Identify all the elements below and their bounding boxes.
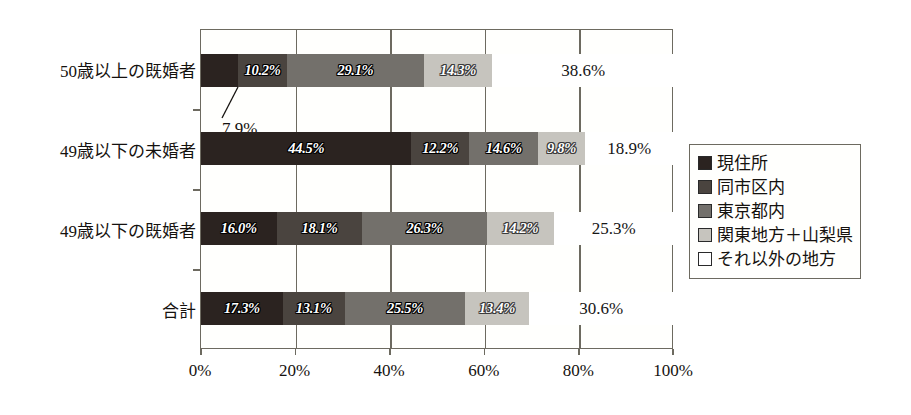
x-axis-tick-40	[389, 349, 391, 355]
x-axis-label-40: 40%	[374, 362, 405, 379]
legend-label-3: 関東地方＋山梨県	[717, 227, 853, 244]
legend-item-0: 現住所	[698, 151, 853, 175]
legend-swatch-icon-4	[698, 252, 712, 266]
bar-segment-label-1-2: 14.6%	[486, 141, 522, 156]
x-axis-tick-100	[672, 349, 674, 355]
legend-swatch-icon-0	[698, 156, 712, 170]
category-label-3-text: 合計	[162, 302, 196, 321]
bar-segment-0-3: 14.3%	[424, 54, 492, 87]
chart-row-0: 10.2% 29.1% 14.3% 38.6% 7.9%	[201, 30, 672, 110]
legend-swatch-icon-3	[698, 228, 712, 242]
legend-item-2: 東京都内	[698, 199, 853, 223]
bar-segment-label-0-2: 29.1%	[337, 63, 373, 78]
bar-segment-label-3-1: 13.1%	[296, 301, 332, 316]
bar-segment-1-3: 9.8%	[538, 132, 584, 165]
bar-segment-label-2-1: 18.1%	[301, 221, 337, 236]
category-label-3: 合計	[26, 303, 196, 320]
bar-segment-label-2-0: 16.0%	[221, 221, 257, 236]
bar-segment-0-4: 38.6%	[492, 54, 675, 87]
x-axis-tick-20	[295, 349, 297, 355]
legend-swatch-icon-1	[698, 180, 712, 194]
chart-row-1: 44.5% 12.2% 14.6% 9.8% 18.9%	[201, 110, 672, 190]
bar-segment-label-0-3: 14.3%	[440, 63, 476, 78]
x-axis-label-0: 0%	[189, 362, 212, 379]
bar-segment-label-3-4: 30.6%	[579, 300, 623, 317]
stacked-bar-3: 17.3% 13.1% 25.5% 13.4% 30.6%	[201, 292, 674, 325]
y-axis-tick-2	[193, 269, 200, 271]
bar-segment-2-3: 14.2%	[487, 212, 554, 245]
x-axis-label-60: 60%	[468, 362, 499, 379]
bar-segment-2-1: 18.1%	[277, 212, 363, 245]
category-label-1: 49歳以下の未婚者	[26, 143, 196, 160]
bar-segment-label-1-4: 18.9%	[607, 140, 651, 157]
x-axis-tick-60	[484, 349, 486, 355]
bar-segment-2-2: 26.3%	[362, 212, 486, 245]
bar-segment-3-0: 17.3%	[201, 292, 283, 325]
x-axis-tick-0	[200, 349, 202, 355]
bar-segment-1-2: 14.6%	[469, 132, 538, 165]
stacked-bar-chart: 10.2% 29.1% 14.3% 38.6% 7.9%	[0, 0, 911, 415]
y-axis-tick-0	[193, 109, 200, 111]
stacked-bar-2: 16.0% 18.1% 26.3% 14.2% 25.3%	[201, 212, 673, 245]
x-axis-tick-80	[578, 349, 580, 355]
legend-label-4: それ以外の地方	[717, 251, 836, 268]
legend-item-1: 同市区内	[698, 175, 853, 199]
y-axis-tick-1	[193, 189, 200, 191]
bar-segment-1-0: 44.5%	[201, 132, 411, 165]
stacked-bar-0: 10.2% 29.1% 14.3% 38.6%	[201, 54, 674, 87]
category-label-1-text: 49歳以下の未婚者	[60, 142, 196, 161]
bar-segment-label-2-4: 25.3%	[592, 220, 636, 237]
bar-segment-3-1: 13.1%	[283, 292, 345, 325]
stacked-bar-1: 44.5% 12.2% 14.6% 9.8% 18.9%	[201, 132, 674, 165]
bar-segment-label-2-3: 14.2%	[502, 221, 538, 236]
legend-label-1: 同市区内	[717, 179, 785, 196]
bar-segment-label-0-4: 38.6%	[561, 62, 605, 79]
bar-segment-3-2: 25.5%	[345, 292, 466, 325]
bar-segment-label-0-1: 10.2%	[245, 63, 281, 78]
plot-area: 10.2% 29.1% 14.3% 38.6% 7.9%	[200, 29, 673, 349]
chart-row-2: 16.0% 18.1% 26.3% 14.2% 25.3%	[201, 190, 672, 270]
bar-segment-3-3: 13.4%	[465, 292, 528, 325]
bar-segment-2-4: 25.3%	[554, 212, 674, 245]
category-label-2: 49歳以下の既婚者	[26, 223, 196, 240]
x-axis-label-100: 100%	[653, 362, 693, 379]
legend-item-3: 関東地方＋山梨県	[698, 223, 853, 247]
bar-segment-0-2: 29.1%	[287, 54, 425, 87]
bar-segment-label-3-2: 25.5%	[387, 301, 423, 316]
x-axis-label-20: 20%	[279, 362, 310, 379]
bar-segment-label-1-0: 44.5%	[288, 141, 324, 156]
category-label-2-text: 49歳以下の既婚者	[60, 222, 196, 241]
bar-segment-2-0: 16.0%	[201, 212, 277, 245]
chart-row-3: 17.3% 13.1% 25.5% 13.4% 30.6%	[201, 270, 672, 350]
bar-segment-label-1-3: 9.8%	[547, 141, 576, 156]
x-axis-label-80: 80%	[563, 362, 594, 379]
bar-segment-0-1: 10.2%	[238, 54, 286, 87]
category-label-0: 50歳以上の既婚者	[26, 63, 196, 80]
bar-segment-1-4: 18.9%	[585, 132, 674, 165]
bar-segment-label-3-3: 13.4%	[479, 301, 515, 316]
bar-segment-label-3-0: 17.3%	[224, 301, 260, 316]
bar-segment-3-4: 30.6%	[529, 292, 674, 325]
legend-item-4: それ以外の地方	[698, 247, 853, 271]
bar-segment-0-0	[201, 54, 238, 87]
legend-swatch-icon-2	[698, 204, 712, 218]
legend-label-2: 東京都内	[717, 203, 785, 220]
legend-label-0: 現住所	[717, 155, 768, 172]
category-label-0-text: 50歳以上の既婚者	[60, 62, 196, 81]
chart-legend: 現住所 同市区内 東京都内 関東地方＋山梨県 それ以外の地方	[689, 144, 861, 279]
bar-segment-1-1: 12.2%	[411, 132, 469, 165]
bar-segment-label-1-1: 12.2%	[422, 141, 458, 156]
bar-segment-label-2-2: 26.3%	[406, 221, 442, 236]
